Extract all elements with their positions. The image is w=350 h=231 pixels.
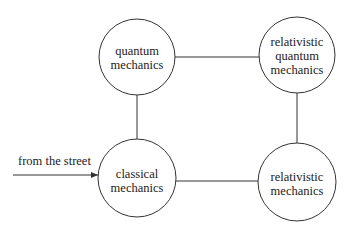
node-relativistic-quantum-mechanics: relativistic quantum mechanics — [259, 17, 335, 93]
node-relativistic-mechanics: relativistic mechanics — [258, 143, 336, 221]
node-label-line: mechanics — [271, 63, 324, 77]
node-label-line: classical — [116, 167, 159, 181]
node-label-line: relativistic — [271, 35, 324, 49]
node-quantum-mechanics: quantum mechanics — [99, 19, 175, 95]
node-label-line: mechanics — [111, 181, 164, 195]
node-classical-mechanics: classical mechanics — [98, 139, 176, 217]
node-label-line: quantum — [115, 44, 159, 58]
physics-hierarchy-diagram: from the street quantum mechanics relati… — [0, 0, 350, 231]
node-label-line: relativistic — [271, 170, 324, 184]
entry-arrow-label: from the street — [18, 154, 91, 168]
node-label-line: mechanics — [111, 58, 164, 72]
node-label-line: quantum — [275, 49, 319, 63]
node-label-line: mechanics — [271, 184, 324, 198]
